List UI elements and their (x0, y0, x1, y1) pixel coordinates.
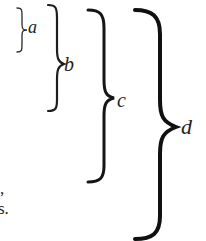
brace-b-icon (48, 5, 64, 111)
brace-a-icon (17, 8, 27, 52)
label-a: a (28, 18, 37, 36)
cropped-text-s: s. (0, 200, 9, 217)
label-b: b (64, 54, 74, 74)
nested-braces-figure: a b c d , s. (0, 0, 206, 241)
label-d: d (181, 116, 192, 138)
brace-c-icon (88, 10, 114, 182)
brace-d-icon (135, 10, 176, 239)
label-c: c (117, 90, 126, 110)
cropped-text-comma: , (0, 180, 4, 197)
